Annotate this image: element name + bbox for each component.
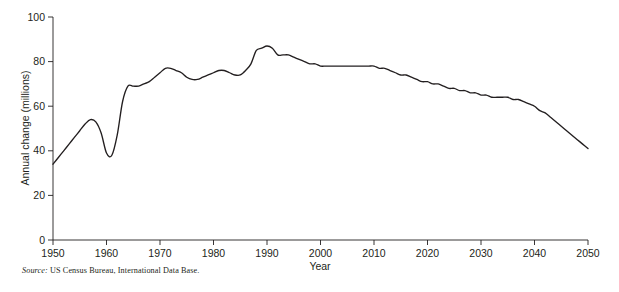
y-tick-label: 0	[39, 234, 45, 246]
chart-axes	[53, 17, 588, 240]
x-tick-label: 2040	[523, 247, 547, 259]
x-axis-ticks: 1950196019701980199020002010202020302040…	[41, 240, 600, 259]
y-axis-title: Annual change (millions)	[19, 71, 31, 186]
source-text: US Census Bureau, International Data Bas…	[48, 266, 200, 275]
y-tick-label: 40	[33, 144, 45, 156]
x-tick-label: 1950	[41, 247, 65, 259]
x-tick-label: 2010	[362, 247, 386, 259]
x-tick-label: 1970	[148, 247, 172, 259]
source-prefix: Source:	[22, 266, 48, 275]
x-tick-label: 1980	[202, 247, 226, 259]
x-tick-label: 2020	[416, 247, 440, 259]
x-tick-label: 2000	[309, 247, 333, 259]
chart-figure: 020406080100 195019601970198019902000201…	[0, 0, 619, 292]
x-tick-label: 1990	[255, 247, 279, 259]
x-tick-label: 1960	[95, 247, 119, 259]
x-axis-title: Year	[309, 260, 331, 272]
y-tick-label: 20	[33, 189, 45, 201]
source-note: Source: US Census Bureau, International …	[22, 266, 200, 275]
y-tick-label: 60	[33, 100, 45, 112]
x-tick-label: 2030	[469, 247, 493, 259]
x-tick-label: 2050	[576, 247, 600, 259]
y-tick-label: 100	[27, 11, 45, 23]
y-axis-ticks: 020406080100	[27, 11, 53, 246]
data-series-line	[53, 46, 588, 164]
y-tick-label: 80	[33, 55, 45, 67]
line-chart-plot: 020406080100 195019601970198019902000201…	[0, 0, 619, 292]
